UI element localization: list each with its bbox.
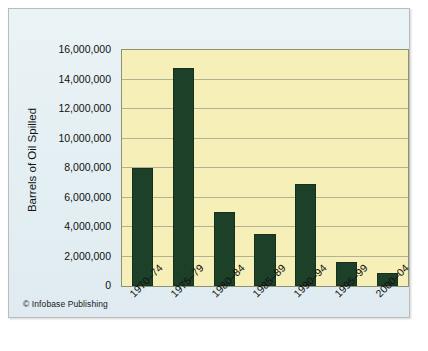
y-axis-tick-label: 16,000,000	[33, 43, 111, 55]
y-axis-tick-label: 10,000,000	[33, 132, 111, 144]
bars-layer	[122, 50, 408, 286]
publisher-credit: © Infobase Publishing	[23, 299, 108, 309]
y-axis-tick-label: 6,000,000	[33, 191, 111, 203]
bar	[173, 68, 194, 286]
y-axis-tick-label: 14,000,000	[33, 73, 111, 85]
y-axis-tick-labels: 02,000,0004,000,0006,000,0008,000,00010,…	[33, 9, 111, 295]
chart-card: Barrels of Oil Spilled 02,000,0004,000,0…	[8, 8, 410, 318]
x-axis-tick-labels: 1970–741975–791980–841985–891990–941995–…	[121, 289, 421, 337]
y-axis-tick-label: 4,000,000	[33, 220, 111, 232]
plot-area	[121, 49, 409, 287]
y-axis-tick-label: 8,000,000	[33, 161, 111, 173]
y-axis-tick-label: 12,000,000	[33, 102, 111, 114]
y-axis-tick-label: 2,000,000	[33, 250, 111, 262]
y-axis-tick-label: 0	[33, 279, 111, 291]
